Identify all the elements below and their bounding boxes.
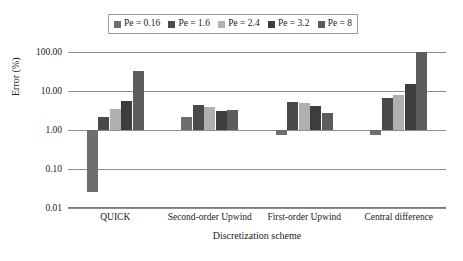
- bar[interactable]: [87, 130, 98, 192]
- legend-item-3[interactable]: Pe = 3.2: [268, 19, 309, 29]
- plot-area: 0.010.101.0010.00100.00: [68, 52, 446, 208]
- legend-label: Pe = 2.4: [228, 19, 259, 29]
- legend-label: Pe = 1.6: [178, 19, 209, 29]
- y-axis-tick-label: 0.10: [45, 164, 68, 174]
- y-axis-tick-label: 100.00: [36, 47, 68, 57]
- x-axis-line: [68, 207, 446, 208]
- bar[interactable]: [204, 107, 215, 130]
- legend-swatch-icon: [168, 21, 175, 28]
- bar[interactable]: [322, 113, 333, 130]
- y-axis-title: Error (%): [10, 57, 21, 96]
- bar[interactable]: [216, 111, 227, 130]
- bar[interactable]: [287, 102, 298, 130]
- bar[interactable]: [405, 84, 416, 130]
- x-axis-tick-label: QUICK: [68, 210, 163, 226]
- y-axis-tick-label: 0.01: [45, 203, 68, 213]
- chart-figure: Pe = 0.16Pe = 1.6Pe = 2.4Pe = 3.2Pe = 8 …: [0, 0, 463, 261]
- bar[interactable]: [393, 95, 404, 130]
- y-axis-tick-label: 10.00: [41, 86, 68, 96]
- x-axis-tick-labels: QUICKSecond-order UpwindFirst-order Upwi…: [68, 210, 446, 226]
- bar[interactable]: [299, 103, 310, 130]
- legend-label: Pe = 3.2: [278, 19, 309, 29]
- legend-swatch-icon: [318, 21, 325, 28]
- legend-swatch-icon: [114, 21, 121, 28]
- bar-group-bars: [352, 52, 447, 208]
- x-axis-tick-label: Central difference: [352, 210, 447, 226]
- legend-swatch-icon: [268, 21, 275, 28]
- gridline: [68, 208, 446, 209]
- bar-group: [257, 52, 352, 208]
- bar-group: [68, 52, 163, 208]
- x-axis-title: Discretization scheme: [68, 230, 446, 241]
- y-axis-tick-label: 1.00: [45, 125, 68, 135]
- bar-groups: [68, 52, 446, 208]
- bar[interactable]: [98, 117, 109, 130]
- legend-swatch-icon: [218, 21, 225, 28]
- bar[interactable]: [110, 109, 121, 130]
- x-axis-tick-label: First-order Upwind: [257, 210, 352, 226]
- legend-label: Pe = 8: [328, 19, 352, 29]
- bar-group-bars: [163, 52, 258, 208]
- legend-item-0[interactable]: Pe = 0.16: [114, 19, 160, 29]
- legend-item-1[interactable]: Pe = 1.6: [168, 19, 209, 29]
- bar-group-bars: [68, 52, 163, 208]
- bar-group-bars: [257, 52, 352, 208]
- bar[interactable]: [227, 110, 238, 130]
- legend-item-2[interactable]: Pe = 2.4: [218, 19, 259, 29]
- legend-item-4[interactable]: Pe = 8: [318, 19, 352, 29]
- bar-group: [352, 52, 447, 208]
- bar[interactable]: [121, 101, 132, 130]
- bar-group: [163, 52, 258, 208]
- bar[interactable]: [193, 105, 204, 130]
- bar[interactable]: [181, 117, 192, 130]
- bar[interactable]: [133, 71, 144, 130]
- x-axis-tick-label: Second-order Upwind: [163, 210, 258, 226]
- bar[interactable]: [276, 130, 287, 135]
- bar[interactable]: [416, 52, 427, 130]
- chart-legend: Pe = 0.16Pe = 1.6Pe = 2.4Pe = 3.2Pe = 8: [108, 14, 358, 34]
- bar[interactable]: [370, 130, 381, 135]
- bar[interactable]: [382, 98, 393, 130]
- bar[interactable]: [310, 106, 321, 130]
- legend-label: Pe = 0.16: [124, 19, 160, 29]
